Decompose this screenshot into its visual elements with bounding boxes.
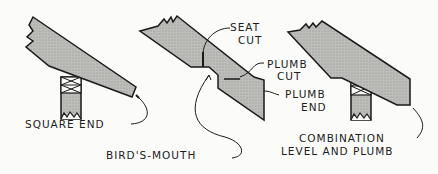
label-combination-line2: LEVEL AND PLUMB (281, 145, 394, 157)
label-plumb-end-line1: PLUMB (285, 88, 326, 100)
label-combination-line1: COMBINATION (299, 132, 385, 144)
label-plumb-cut-line1: PLUMB (267, 58, 308, 70)
square-end-figure (26, 17, 136, 119)
label-seat-cut-line2: CUT (238, 34, 262, 46)
label-birds-mouth: BIRD'S-MOUTH (106, 149, 196, 161)
label-square-end: SQUARE END (25, 118, 105, 130)
label-seat-cut-line1: SEAT (230, 21, 260, 33)
label-plumb-cut-line2: CUT (277, 70, 301, 82)
label-plumb-end-line2: END (301, 101, 327, 113)
rafter-cuts-diagram: SQUARE END SEAT CUT PLUMB CUT PLUMB END … (0, 0, 438, 174)
